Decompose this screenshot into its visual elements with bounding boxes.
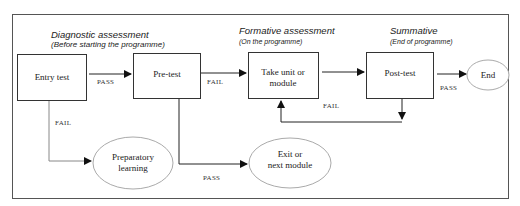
phase-summative: Summative (End of programme) xyxy=(390,25,453,46)
node-label: Exit or xyxy=(278,149,303,159)
edge-post-to-take-loop xyxy=(281,101,402,122)
edge-entry-to-preparatory xyxy=(49,101,91,161)
edge-label: FAIL xyxy=(323,102,339,110)
edge-label: PASS xyxy=(440,84,457,92)
node-exit: Exit or next module xyxy=(249,138,331,188)
node-label: Take unit or xyxy=(261,67,304,77)
node-label: Entry test xyxy=(35,72,70,82)
node-preparatory-learning: Preparatory learning xyxy=(93,137,173,189)
node-label: Post-test xyxy=(384,68,416,78)
phase-diagnostic: Diagnostic assessment (Before starting t… xyxy=(51,29,165,49)
edge-label: FAIL xyxy=(55,119,71,127)
node-take-unit: Take unit or module xyxy=(249,53,319,99)
node-label: End xyxy=(481,70,496,80)
phase-subtitle: (Before starting the programme) xyxy=(51,40,165,49)
phase-title: Formative assessment xyxy=(239,25,335,36)
phase-title: Summative xyxy=(390,25,438,36)
edge-label: FAIL xyxy=(207,78,223,86)
node-end: End xyxy=(467,60,509,90)
node-label: Preparatory xyxy=(112,152,154,162)
flowchart-diagram: Diagnostic assessment (Before starting t… xyxy=(0,0,520,206)
node-label: Pre-test xyxy=(153,69,181,79)
phase-subtitle: (End of programme) xyxy=(390,38,453,46)
edge-label: PASS xyxy=(97,78,114,86)
phase-title: Diagnostic assessment xyxy=(51,29,149,40)
node-label: next module xyxy=(268,160,313,170)
node-post-test: Post-test xyxy=(367,53,434,99)
node-pre-test: Pre-test xyxy=(134,54,201,99)
phase-formative: Formative assessment (On the programme) xyxy=(239,25,335,46)
edge-pre-to-exit xyxy=(179,99,247,164)
phase-subtitle: (On the programme) xyxy=(239,38,302,46)
edge-label: PASS xyxy=(203,174,220,182)
node-label: learning xyxy=(118,163,148,173)
node-label: module xyxy=(270,78,297,88)
node-entry-test: Entry test xyxy=(18,55,87,101)
